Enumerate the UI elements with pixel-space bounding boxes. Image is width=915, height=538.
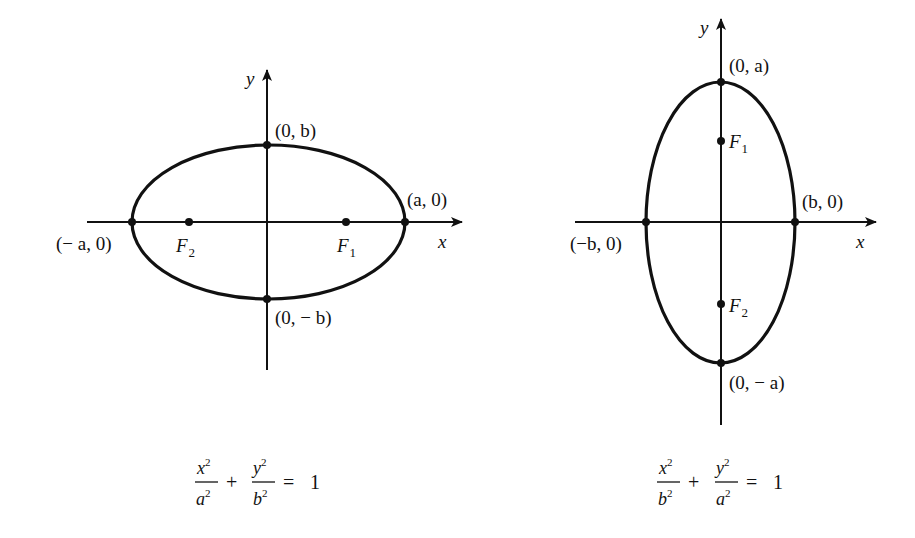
vertex-label-bottom: (0, − a) (729, 372, 785, 394)
focus-dot-f1 (342, 218, 350, 226)
eq-plus: + (688, 471, 699, 493)
eq-term1-numerator: x2 (658, 456, 673, 478)
focus-dot-f1 (717, 137, 725, 145)
eq-term2-numerator: y2 (251, 456, 267, 478)
vertex-dot-left (642, 218, 650, 226)
eq-equals: = (283, 471, 294, 493)
vertex-label-left: (− a, 0) (56, 233, 112, 255)
eq-plus: + (226, 471, 237, 493)
eq-term2-denominator: b2 (253, 487, 268, 509)
vertex-dot-left (128, 218, 136, 226)
focus-label-f1: F1 (728, 131, 748, 156)
focus-dot-f2 (717, 300, 725, 308)
vertex-label-left: (−b, 0) (570, 233, 622, 255)
equation-horizontal: x2 a2 + y2 b2 = 1 (195, 456, 320, 509)
eq-term1-denominator: a2 (196, 487, 211, 509)
eq-rhs: 1 (310, 471, 320, 493)
focus-label-f2: F2 (728, 295, 748, 320)
vertex-label-right: (a, 0) (407, 189, 447, 211)
x-axis-label: x (437, 231, 447, 252)
eq-term1-numerator: x2 (196, 456, 211, 478)
vertex-label-right: (b, 0) (802, 191, 843, 213)
x-axis-label: x (855, 231, 865, 252)
vertical-ellipse-diagram: y x (0, a) (0, − a) (−b, 0) (b, 0) F1 F2… (570, 17, 876, 509)
horizontal-ellipse-diagram: y x (0, b) (0, − b) (− a, 0) (a, 0) F2 F… (56, 68, 462, 509)
vertex-dot-top (263, 141, 271, 149)
eq-term2-denominator: a2 (716, 487, 731, 509)
focus-label-f2: F2 (175, 235, 195, 260)
eq-term2-numerator: y2 (714, 456, 730, 478)
focus-dot-f2 (185, 218, 193, 226)
vertex-dot-bottom (717, 359, 725, 367)
vertex-label-top: (0, a) (729, 55, 769, 77)
eq-term1-denominator: b2 (658, 487, 673, 509)
equation-vertical: x2 b2 + y2 a2 = 1 (657, 456, 783, 509)
ellipse-diagrams: y x (0, b) (0, − b) (− a, 0) (a, 0) F2 F… (0, 0, 915, 538)
y-axis-label: y (698, 17, 709, 38)
vertex-dot-top (717, 78, 725, 86)
vertex-dot-bottom (263, 295, 271, 303)
eq-equals: = (746, 471, 757, 493)
vertex-dot-right (401, 218, 409, 226)
vertex-dot-right (791, 218, 799, 226)
eq-rhs: 1 (773, 471, 783, 493)
focus-label-f1: F1 (336, 235, 356, 260)
vertex-label-top: (0, b) (275, 120, 316, 142)
y-axis-label: y (244, 68, 255, 89)
vertex-label-bottom: (0, − b) (275, 307, 332, 329)
